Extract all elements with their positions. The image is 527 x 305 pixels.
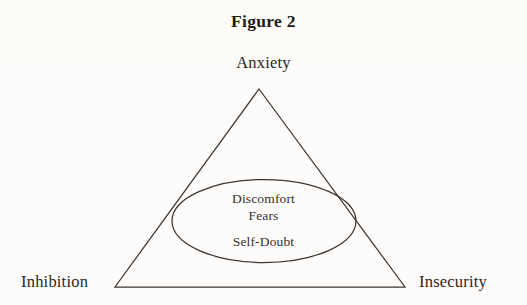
left-vertex-label-inhibition: Inhibition [21, 274, 88, 291]
figure-canvas: Figure 2 Anxiety Inhibition Insecurity D… [0, 0, 527, 305]
figure-diagram-vector [0, 0, 527, 305]
right-vertex-label-insecurity: Insecurity [419, 274, 487, 291]
triangle-shape [115, 89, 405, 287]
core-item-discomfort: Discomfort [0, 192, 527, 206]
apex-vertex-label-anxiety: Anxiety [0, 55, 527, 72]
figure-title: Figure 2 [0, 13, 527, 31]
core-item-self-doubt: Self-Doubt [0, 235, 527, 249]
core-item-fears: Fears [0, 209, 527, 223]
